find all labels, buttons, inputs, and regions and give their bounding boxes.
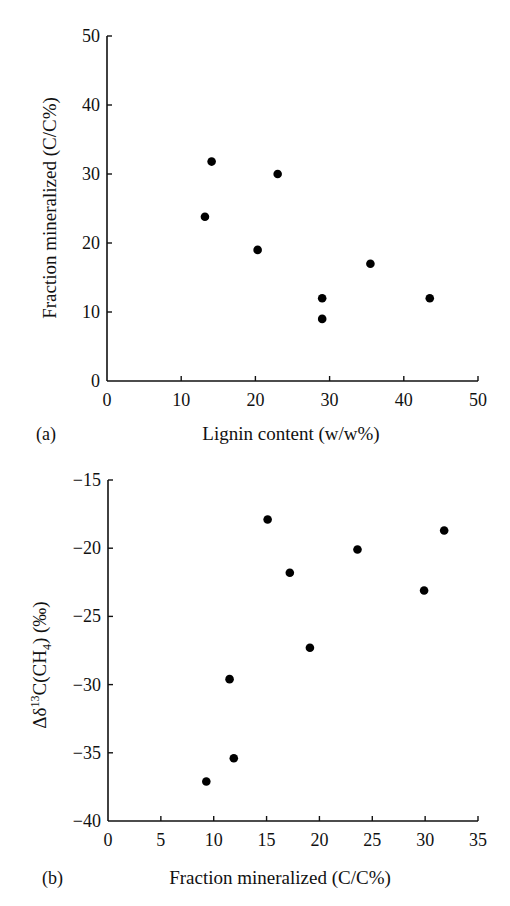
a-x-tick-label: 10 <box>172 390 190 410</box>
b-data-point <box>420 586 429 595</box>
b-y-tick-label: −15 <box>73 470 101 490</box>
panel-label-a: (a) <box>36 424 56 445</box>
b-data-point <box>353 545 362 554</box>
y-axis-label-a: Fraction mineralized (C/C%) <box>39 97 61 319</box>
a-y-tick-label: 20 <box>82 233 100 253</box>
x-axis-label-a: Lignin content (w/w%) <box>202 423 379 445</box>
a-data-point <box>366 259 375 268</box>
b-x-tick-label: 5 <box>156 830 165 850</box>
chart-panel-a: 0102030405001020304050 Fraction minerali… <box>0 0 510 450</box>
axes-a: 0102030405001020304050 <box>82 26 487 410</box>
scatter-plot-a: 0102030405001020304050 Fraction minerali… <box>0 0 510 450</box>
b-x-tick-label: 35 <box>469 830 487 850</box>
b-x-tick-label: 25 <box>363 830 381 850</box>
a-x-tick-label: 40 <box>395 390 413 410</box>
a-y-tick-label: 40 <box>82 95 100 115</box>
a-data-point <box>207 157 216 166</box>
b-x-tick-label: 15 <box>258 830 276 850</box>
x-axis-label-b: Fraction mineralized (C/C%) <box>169 867 391 889</box>
b-y-tick-label: −30 <box>73 675 101 695</box>
b-data-point <box>225 675 234 684</box>
a-y-tick-label: 10 <box>82 302 100 322</box>
scatter-plot-b: 05101520253035−40−35−30−25−20−15 Δδ13C(C… <box>0 450 510 906</box>
y-axis-label-b: Δδ13C(CH4) (‰) <box>28 601 54 728</box>
b-x-tick-label: 30 <box>416 830 434 850</box>
a-data-point <box>253 246 262 255</box>
b-data-point <box>440 526 449 535</box>
b-y-tick-label: −35 <box>73 743 101 763</box>
b-data-point <box>230 754 239 763</box>
a-data-point <box>201 212 210 221</box>
a-data-point <box>318 294 327 303</box>
axes-b: 05101520253035−40−35−30−25−20−15 <box>73 470 487 850</box>
a-data-point <box>425 294 434 303</box>
b-x-tick-label: 10 <box>205 830 223 850</box>
b-y-tick-label: −25 <box>73 606 101 626</box>
a-y-tick-label: 30 <box>82 164 100 184</box>
b-x-tick-label: 20 <box>310 830 328 850</box>
a-x-tick-label: 50 <box>469 390 487 410</box>
a-data-point <box>273 170 282 179</box>
b-data-point <box>286 568 295 577</box>
a-x-tick-label: 20 <box>246 390 264 410</box>
a-data-point <box>318 315 327 324</box>
b-data-point <box>263 515 272 524</box>
b-y-tick-label: −40 <box>73 811 101 831</box>
b-y-tick-label: −20 <box>73 538 101 558</box>
b-data-point <box>306 643 315 652</box>
chart-panel-b: 05101520253035−40−35−30−25−20−15 Δδ13C(C… <box>0 450 510 906</box>
a-x-tick-label: 30 <box>321 390 339 410</box>
panel-label-b: (b) <box>42 868 63 889</box>
data-points-a <box>201 157 434 323</box>
a-y-tick-label: 50 <box>82 26 100 46</box>
b-data-point <box>202 777 211 786</box>
a-x-tick-label: 0 <box>103 390 112 410</box>
a-y-tick-label: 0 <box>91 371 100 391</box>
data-points-b <box>202 515 448 785</box>
b-x-tick-label: 0 <box>104 830 113 850</box>
